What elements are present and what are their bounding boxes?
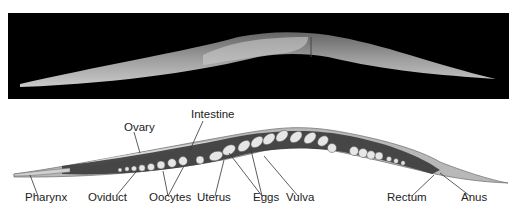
label-eggs: Eggs — [253, 192, 279, 204]
label-ovary: Ovary — [124, 122, 155, 134]
label-intestine: Intestine — [191, 109, 234, 121]
label-vulva: Vulva — [286, 192, 314, 204]
label-pharynx: Pharynx — [25, 192, 67, 204]
label-anus: Anus — [461, 192, 487, 204]
worm-micrograph — [8, 13, 509, 99]
label-rectum: Rectum — [387, 192, 427, 204]
label-oocytes: Oocytes — [149, 192, 191, 204]
label-oviduct: Oviduct — [88, 192, 127, 204]
label-uterus: Uterus — [197, 192, 231, 204]
